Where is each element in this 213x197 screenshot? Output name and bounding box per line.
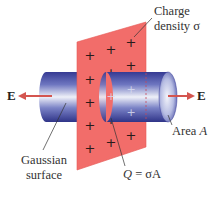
label-q: Q = σA	[123, 167, 161, 181]
plus-sign-icon: +	[106, 42, 117, 57]
plus-sign-icon: +	[85, 48, 96, 63]
label-area: Area A	[172, 124, 207, 138]
label-charge-line2: density σ	[154, 19, 200, 33]
plus-sign-icon: +	[85, 141, 96, 156]
label-q-var: Q	[123, 167, 132, 181]
label-area-var: A	[199, 124, 207, 138]
plus-sign-icon: +	[126, 106, 135, 119]
plus-sign-icon: +	[126, 58, 137, 73]
label-q-expr: = σA	[132, 167, 161, 181]
plus-sign-icon: +	[85, 95, 96, 110]
gauss-law-diagram: + + + + + + + + + + + + + + +	[0, 0, 213, 197]
plus-sign-icon: +	[126, 83, 135, 96]
gaussian-cylinder-right: + + +	[99, 72, 177, 122]
label-charge-line1: Charge	[154, 4, 190, 18]
label-gaussian-line1: Gaussian	[14, 153, 74, 167]
label-e-left: E	[7, 89, 16, 103]
plus-sign-icon: +	[126, 128, 137, 143]
label-area-text: Area	[172, 124, 199, 138]
plus-sign-icon: +	[106, 90, 115, 103]
label-e-right: E	[197, 89, 206, 103]
plus-sign-icon: +	[106, 135, 117, 150]
plus-sign-icon: +	[85, 118, 96, 133]
plus-sign-icon: +	[85, 72, 96, 87]
plus-sign-icon: +	[126, 35, 137, 50]
label-gaussian-line2: surface	[14, 168, 74, 182]
